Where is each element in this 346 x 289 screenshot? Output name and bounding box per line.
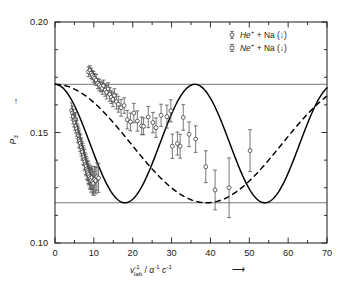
data-point-marker xyxy=(181,116,185,120)
data-point-marker xyxy=(146,115,150,119)
data-point-marker xyxy=(128,120,132,124)
data-point-marker xyxy=(194,137,198,141)
y-axis-arrow: ↑ xyxy=(14,96,18,106)
series-he xyxy=(86,66,252,218)
data-point-marker xyxy=(132,111,136,115)
legend-marker-he xyxy=(230,33,234,37)
legend-label-ne: Ne+ + Na (↓) xyxy=(240,41,287,52)
data-point-marker xyxy=(169,109,173,113)
x-tick-label: 50 xyxy=(244,248,254,258)
x-tick-label: 40 xyxy=(205,248,215,258)
data-point-marker xyxy=(122,104,126,108)
data-point-marker xyxy=(142,124,146,128)
data-point-marker xyxy=(159,113,163,117)
y-tick-label: 0.20 xyxy=(30,17,48,27)
chart-svg: 0102030405060700.100.150.20↑P3v-1lab / α… xyxy=(0,0,346,289)
x-tick-label: 30 xyxy=(166,248,176,258)
polarization-chart-figure: 0102030405060700.100.150.20↑P3v-1lab / α… xyxy=(0,0,346,289)
data-point-marker xyxy=(116,102,120,106)
data-point-marker xyxy=(165,115,169,119)
legend-label-he: He+ + Na (↓) xyxy=(240,28,287,39)
data-point-marker xyxy=(204,165,208,169)
legend-marker-ne xyxy=(230,46,234,50)
y-axis-title: P3 xyxy=(8,135,19,145)
data-point-marker xyxy=(151,121,155,125)
plot-frame xyxy=(55,22,327,243)
x-tick-label: 70 xyxy=(322,248,332,258)
y-tick-label: 0.15 xyxy=(30,128,48,138)
data-point-marker xyxy=(178,144,182,148)
data-point-marker xyxy=(187,132,191,136)
data-point-marker xyxy=(135,119,139,123)
data-point-marker xyxy=(97,176,101,180)
x-tick-label: 0 xyxy=(52,248,57,258)
x-tick-label: 60 xyxy=(283,248,293,258)
x-tick-label: 20 xyxy=(128,248,138,258)
x-axis-title: v-1lab / α-1 c-1 xyxy=(130,263,172,277)
y-tick-label: 0.10 xyxy=(30,238,48,248)
data-point-marker xyxy=(170,144,174,148)
data-point-marker xyxy=(227,186,231,190)
series-ne xyxy=(70,103,101,196)
x-axis-arrow: ⟶ xyxy=(232,264,245,274)
data-point-marker xyxy=(248,149,252,153)
x-tick-label: 10 xyxy=(89,248,99,258)
data-point-marker xyxy=(154,126,158,130)
data-point-marker xyxy=(213,188,217,192)
